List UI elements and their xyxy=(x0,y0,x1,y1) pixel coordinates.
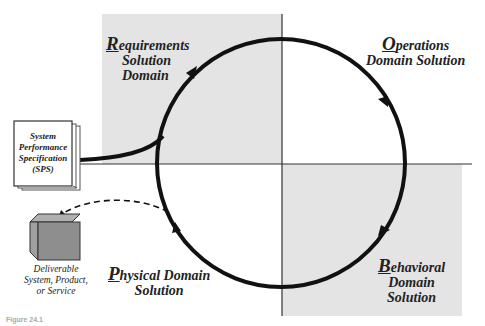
sps-document-label: System Performance Specification (SPS) xyxy=(14,131,72,175)
arrowhead-operations-icon xyxy=(378,96,388,107)
deliverable-output-dashed-curve xyxy=(62,200,168,214)
deliverable-cube-icon xyxy=(30,214,80,260)
requirements-domain-label: Requirements Solution Domain xyxy=(106,36,189,83)
behavioral-domain-label: Behavioral Domain Solution xyxy=(378,258,445,305)
physical-domain-label: Physical Domain Solution xyxy=(108,266,210,298)
operations-domain-label: Operations Domain Solution xyxy=(366,36,465,68)
figure-caption: Figure 24.1 xyxy=(6,316,43,323)
deliverable-label: Deliverable System, Product, or Service xyxy=(16,264,96,297)
